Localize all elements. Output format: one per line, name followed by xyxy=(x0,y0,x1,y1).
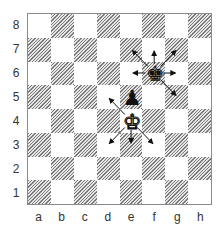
file-label-d: d xyxy=(100,210,116,224)
square-a2 xyxy=(28,157,51,181)
square-f1 xyxy=(142,180,165,204)
file-label-a: a xyxy=(31,210,47,224)
square-h8 xyxy=(188,14,211,38)
square-e2 xyxy=(120,157,143,181)
square-g3 xyxy=(165,133,188,157)
square-b7 xyxy=(51,38,74,62)
file-label-c: c xyxy=(77,210,93,224)
square-d2 xyxy=(97,157,120,181)
square-d3 xyxy=(97,133,120,157)
square-f2 xyxy=(142,157,165,181)
square-b5 xyxy=(51,85,74,109)
square-b2 xyxy=(51,157,74,181)
square-e8 xyxy=(120,14,143,38)
square-d8 xyxy=(97,14,120,38)
rank-label-7: 7 xyxy=(9,42,23,56)
black-pawn-e5: ♟ xyxy=(121,86,144,110)
square-d4 xyxy=(97,109,120,133)
square-a6 xyxy=(28,62,51,86)
rank-label-6: 6 xyxy=(9,66,23,80)
square-f7 xyxy=(142,38,165,62)
square-f8 xyxy=(142,14,165,38)
black-king-f6: ♚ xyxy=(144,62,167,86)
square-g6 xyxy=(165,62,188,86)
file-label-e: e xyxy=(123,210,139,224)
square-f5 xyxy=(142,85,165,109)
square-e7 xyxy=(120,38,143,62)
square-h2 xyxy=(188,157,211,181)
square-c8 xyxy=(74,14,97,38)
rank-label-4: 4 xyxy=(9,114,23,128)
square-c6 xyxy=(74,62,97,86)
chess-board: ♚♟♚ xyxy=(27,13,212,205)
square-c7 xyxy=(74,38,97,62)
square-f3 xyxy=(142,133,165,157)
square-c2 xyxy=(74,157,97,181)
square-b3 xyxy=(51,133,74,157)
white-king-e4: ♚ xyxy=(121,110,144,134)
rank-label-3: 3 xyxy=(9,138,23,152)
square-e3 xyxy=(120,133,143,157)
square-g4 xyxy=(165,109,188,133)
rank-label-1: 1 xyxy=(9,186,23,200)
square-g8 xyxy=(165,14,188,38)
square-f4 xyxy=(142,109,165,133)
square-b8 xyxy=(51,14,74,38)
square-a3 xyxy=(28,133,51,157)
square-g2 xyxy=(165,157,188,181)
square-b4 xyxy=(51,109,74,133)
rank-label-8: 8 xyxy=(9,18,23,32)
rank-label-2: 2 xyxy=(9,162,23,176)
square-b1 xyxy=(51,180,74,204)
square-d1 xyxy=(97,180,120,204)
square-h3 xyxy=(188,133,211,157)
square-h6 xyxy=(188,62,211,86)
file-label-b: b xyxy=(54,210,70,224)
square-c1 xyxy=(74,180,97,204)
square-c3 xyxy=(74,133,97,157)
square-h4 xyxy=(188,109,211,133)
board-grid xyxy=(28,14,211,204)
square-e1 xyxy=(120,180,143,204)
rank-label-5: 5 xyxy=(9,90,23,104)
file-label-g: g xyxy=(169,210,185,224)
square-a5 xyxy=(28,85,51,109)
square-d5 xyxy=(97,85,120,109)
square-b6 xyxy=(51,62,74,86)
square-a1 xyxy=(28,180,51,204)
square-e6 xyxy=(120,62,143,86)
square-d6 xyxy=(97,62,120,86)
square-h7 xyxy=(188,38,211,62)
square-a7 xyxy=(28,38,51,62)
file-label-h: h xyxy=(192,210,208,224)
square-c4 xyxy=(74,109,97,133)
square-g5 xyxy=(165,85,188,109)
square-h5 xyxy=(188,85,211,109)
square-c5 xyxy=(74,85,97,109)
square-g1 xyxy=(165,180,188,204)
square-d7 xyxy=(97,38,120,62)
square-g7 xyxy=(165,38,188,62)
square-a8 xyxy=(28,14,51,38)
file-label-f: f xyxy=(146,210,162,224)
square-a4 xyxy=(28,109,51,133)
square-h1 xyxy=(188,180,211,204)
